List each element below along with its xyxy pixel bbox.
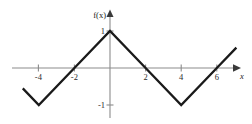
plot-svg: -4 -2 2 4 6 1 -1 f(x) x xyxy=(0,0,252,124)
x-tick-label-neg2: -2 xyxy=(71,72,78,82)
function-label: f(x) xyxy=(93,10,106,20)
x-tick-label-4: 4 xyxy=(179,72,184,82)
function-graph-figure: -4 -2 2 4 6 1 -1 f(x) x xyxy=(0,0,252,124)
x-tick-label-2: 2 xyxy=(143,72,147,82)
y-axis-arrow-icon xyxy=(107,10,114,18)
x-tick-label-6: 6 xyxy=(215,72,219,82)
x-axis-label: x xyxy=(239,71,244,81)
x-tick-label-neg4: -4 xyxy=(35,72,43,82)
y-tick-label-1: 1 xyxy=(101,26,105,36)
y-tick-label-neg1: -1 xyxy=(98,100,105,110)
